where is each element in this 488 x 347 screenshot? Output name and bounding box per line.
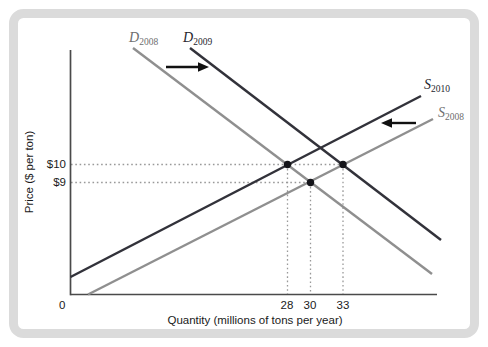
label-d2008-subscript: 2008: [139, 37, 158, 47]
label-d2009-letter: D: [183, 30, 193, 45]
qty-tick-30: 30: [298, 300, 322, 312]
label-s2010-letter: S: [424, 77, 431, 92]
point-q28-p10: [284, 161, 291, 168]
price-tick-9: $9: [24, 177, 66, 189]
point-q33-p10: [339, 161, 346, 168]
label-s2008-letter: S: [438, 105, 445, 120]
label-demand-2008: D2008: [129, 31, 158, 48]
label-demand-2009: D2009: [183, 31, 212, 48]
label-s2008-subscript: 2008: [445, 112, 464, 122]
y-axis-title: Price ($ per ton): [24, 131, 36, 213]
x-axis-title: Quantity (millions of tons per year): [167, 315, 342, 327]
label-supply-2010: S2010: [424, 78, 450, 95]
origin-tick: 0: [59, 300, 65, 312]
label-d2008-letter: D: [129, 30, 139, 45]
label-s2010-subscript: 2010: [431, 84, 450, 94]
price-tick-10: $10: [24, 159, 66, 171]
label-d2009-subscript: 2009: [193, 37, 212, 47]
point-q30-p9: [307, 179, 314, 186]
card-frame: [14, 14, 475, 334]
label-supply-2008: S2008: [438, 106, 464, 123]
supply-demand-figure: Price ($ per ton) Quantity (millions of …: [0, 0, 488, 347]
qty-tick-33: 33: [331, 300, 355, 312]
figure-canvas: [0, 0, 488, 347]
qty-tick-28: 28: [275, 300, 299, 312]
